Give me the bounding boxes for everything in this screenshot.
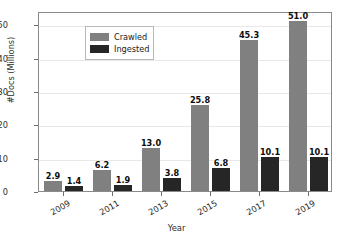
x-tick-label: 2011 xyxy=(93,198,121,220)
bar-value-label: 10.1 xyxy=(303,148,336,156)
bar-ingested-2011 xyxy=(114,185,133,191)
gridline xyxy=(39,160,331,161)
legend-swatch-ingested xyxy=(90,45,109,53)
bar-ingested-2013 xyxy=(163,178,182,191)
bar-value-label: 1.9 xyxy=(107,176,140,184)
bar-value-label: 45.3 xyxy=(233,31,266,39)
bar-value-label: 6.2 xyxy=(86,161,119,169)
bar-crawled-2015 xyxy=(191,105,210,191)
x-tick-mark xyxy=(259,192,260,196)
bar-value-label: 10.1 xyxy=(254,148,287,156)
x-tick-label: 2009 xyxy=(44,198,72,220)
chart-legend: Crawled Ingested xyxy=(85,26,154,60)
bar-value-label: 25.8 xyxy=(184,96,217,104)
x-tick-label: 2019 xyxy=(289,198,317,220)
bar-ingested-2017 xyxy=(261,157,280,191)
legend-item-ingested: Ingested xyxy=(90,43,149,55)
x-tick-mark xyxy=(161,192,162,196)
legend-label-crawled: Crawled xyxy=(114,33,147,41)
x-tick-label: 2017 xyxy=(240,198,268,220)
y-tick-label: 30 xyxy=(0,88,8,96)
bar-value-label: 3.8 xyxy=(156,169,189,177)
bar-value-label: 51.0 xyxy=(282,12,315,20)
gridline xyxy=(39,60,331,61)
x-tick-mark xyxy=(63,192,64,196)
gridline xyxy=(39,26,331,27)
legend-swatch-crawled xyxy=(90,33,109,41)
x-axis-title: Year xyxy=(0,223,353,233)
bar-ingested-2009 xyxy=(65,186,84,191)
bar-value-label: 6.8 xyxy=(205,159,238,167)
x-tick-mark xyxy=(112,192,113,196)
bar-crawled-2017 xyxy=(240,40,259,191)
y-tick-label: 40 xyxy=(0,55,8,63)
x-tick-mark xyxy=(308,192,309,196)
bar-value-label: 13.0 xyxy=(135,139,168,147)
bar-value-label: 1.4 xyxy=(58,177,91,185)
bar-ingested-2015 xyxy=(212,168,231,191)
y-tick-label: 50 xyxy=(0,21,8,29)
y-tick-label: 10 xyxy=(0,155,8,163)
gridline xyxy=(39,93,331,94)
y-tick-label: 0 xyxy=(0,188,8,196)
y-tick-label: 20 xyxy=(0,121,8,129)
bar-ingested-2019 xyxy=(310,157,329,191)
x-tick-label: 2013 xyxy=(142,198,170,220)
bar-chart-figure: #Docs (Millions) 01020304050 2.91.46.21.… xyxy=(0,0,353,238)
legend-item-crawled: Crawled xyxy=(90,31,149,43)
x-tick-label: 2015 xyxy=(191,198,219,220)
legend-label-ingested: Ingested xyxy=(114,45,150,53)
x-tick-mark xyxy=(210,192,211,196)
gridline xyxy=(39,126,331,127)
plot-area: 2.91.46.21.913.03.825.86.845.310.151.010… xyxy=(38,12,332,192)
bar-crawled-2019 xyxy=(289,21,308,191)
y-tick-mark xyxy=(34,192,38,193)
